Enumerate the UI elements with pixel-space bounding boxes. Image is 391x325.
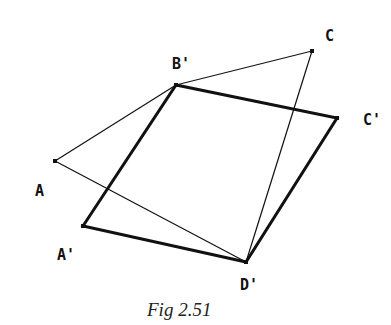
label-Cprime: C' xyxy=(363,111,381,129)
parallelogram-Aprime-Bprime-Cprime-Dprime xyxy=(83,85,337,262)
point-Cprime-marker xyxy=(335,116,339,120)
segment-A-Bprime xyxy=(55,85,176,161)
point-Dprime-marker xyxy=(244,260,248,264)
segment-C-Dprime xyxy=(246,51,312,262)
label-A: A xyxy=(35,182,44,200)
segment-Bprime-C xyxy=(176,51,312,85)
vertex-markers xyxy=(53,49,339,264)
figure-caption: Fig 2.51 xyxy=(146,299,211,320)
label-C: C xyxy=(325,27,334,45)
geometry-figure: B' C C' A A' D' Fig 2.51 xyxy=(0,0,391,325)
point-Bprime-marker xyxy=(174,83,178,87)
segment-A-Dprime xyxy=(55,161,246,262)
label-Dprime: D' xyxy=(240,276,258,294)
label-Aprime: A' xyxy=(57,246,75,264)
point-Aprime-marker xyxy=(81,224,85,228)
label-Bprime: B' xyxy=(172,55,190,73)
point-C-marker xyxy=(310,49,314,53)
original-quadrilateral xyxy=(55,51,312,262)
point-A-marker xyxy=(53,159,57,163)
image-parallelogram xyxy=(83,85,337,262)
